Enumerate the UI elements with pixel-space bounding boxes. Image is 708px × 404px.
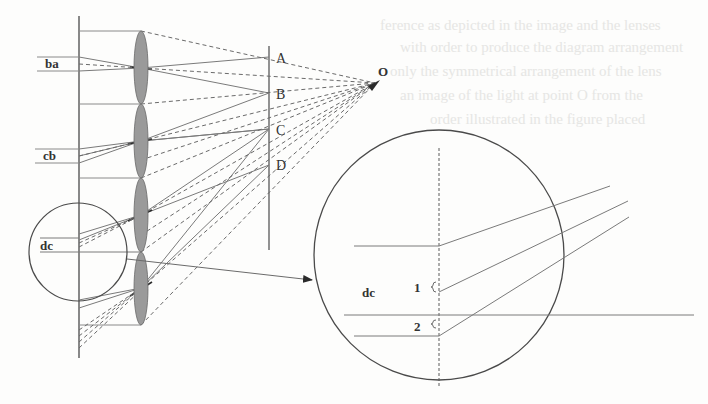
svg-text:ference as depicted in the ima: ference as depicted in the image and the… bbox=[380, 17, 661, 33]
svg-text:order illustrated in the figur: order illustrated in the figure placed bbox=[430, 111, 646, 127]
figure-page: ference as depicted in the image and the… bbox=[0, 0, 708, 404]
label-1: 1 bbox=[414, 280, 421, 295]
label-dc: dc bbox=[40, 238, 53, 253]
label-2: 2 bbox=[414, 319, 421, 334]
chief-rays bbox=[40, 57, 269, 308]
label-cb: cb bbox=[43, 148, 56, 163]
svg-text:an image of the light at point: an image of the light at point O from th… bbox=[400, 87, 643, 103]
svg-text:only the symmetrical arrangeme: only the symmetrical arrangement of the … bbox=[390, 63, 662, 79]
optics-diagram: ference as depicted in the image and the… bbox=[0, 0, 708, 404]
bleed-through-text: ference as depicted in the image and the… bbox=[380, 17, 684, 127]
label-C: C bbox=[276, 123, 285, 138]
cb-marker bbox=[35, 149, 79, 163]
inset-braces bbox=[431, 282, 436, 328]
label-A: A bbox=[276, 51, 287, 66]
label-O: O bbox=[378, 64, 388, 79]
lens-4 bbox=[134, 252, 148, 325]
lens-3 bbox=[134, 178, 148, 252]
lens-1 bbox=[134, 31, 148, 104]
inset-lines bbox=[344, 186, 694, 336]
label-inset-dc: dc bbox=[362, 285, 375, 300]
svg-text:with order to produce the diag: with order to produce the diagram arrang… bbox=[400, 39, 684, 55]
label-B: B bbox=[276, 87, 285, 102]
lens-2 bbox=[134, 104, 148, 178]
label-D: D bbox=[276, 158, 286, 173]
lens-boundary-lines bbox=[79, 31, 141, 325]
magnify-arrow bbox=[127, 259, 312, 280]
label-ba: ba bbox=[45, 56, 59, 71]
